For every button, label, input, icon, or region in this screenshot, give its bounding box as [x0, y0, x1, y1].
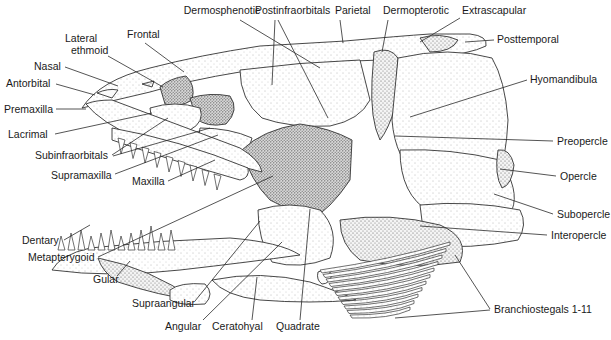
- label-frontal: Frontal: [127, 28, 160, 40]
- fish-skull-diagram: DermosphenoticPostinfraorbitalsParietalD…: [0, 0, 611, 340]
- label-dermosphenotic: Dermosphenotic: [184, 4, 260, 16]
- parietal-leader-line: [340, 20, 343, 43]
- label-extrascapular: Extrascapular: [462, 4, 527, 16]
- label-postinfraorbitals: Postinfraorbitals: [255, 4, 330, 16]
- branchiostegals-leader-line: [395, 310, 490, 318]
- label-quadrate: Quadrate: [276, 320, 320, 332]
- opercular-series: [340, 52, 524, 266]
- label-antorbital: Antorbital: [6, 77, 50, 89]
- upper-tooth: [118, 138, 125, 154]
- label-gular: Gular: [93, 273, 119, 285]
- upper-tooth: [214, 174, 221, 190]
- lower-tooth: [98, 233, 105, 250]
- label-lateral-ethmoid-line2: ethmoid: [71, 44, 109, 56]
- label-metapterygoid: Metapterygoid: [28, 251, 95, 263]
- lower-tooth: [108, 230, 115, 250]
- lower-tooth: [78, 230, 85, 250]
- upper-tooth: [190, 165, 197, 181]
- nasal-leader-line: [65, 67, 118, 86]
- lower-tooth: [138, 230, 145, 250]
- label-opercle: Opercle: [560, 170, 597, 182]
- upper-tooth: [154, 152, 161, 168]
- label-lateral-ethmoid: Lateral: [65, 32, 97, 44]
- label-dentary: Dentary: [22, 234, 60, 246]
- label-posttemporal: Posttemporal: [497, 33, 559, 45]
- dentary-leader-line: [64, 225, 90, 240]
- upper-tooth: [166, 156, 173, 172]
- lower-tooth: [168, 230, 175, 250]
- label-maxilla: Maxilla: [132, 175, 165, 187]
- branchiostegals-leader-line: [455, 255, 490, 309]
- label-nasal: Nasal: [34, 60, 61, 72]
- lower-tooth: [88, 236, 95, 250]
- label-supramaxilla: Supramaxilla: [51, 169, 112, 181]
- label-premaxilla: Premaxilla: [4, 103, 53, 115]
- skull-illustration: DermosphenoticPostinfraorbitalsParietalD…: [0, 0, 611, 340]
- upper-tooth: [202, 170, 209, 186]
- label-subinfraorbitals: Subinfraorbitals: [35, 149, 108, 161]
- jaws: [52, 100, 300, 305]
- label-ceratohyal: Ceratohyal: [212, 320, 263, 332]
- label-angular: Angular: [165, 320, 202, 332]
- label-dermopterotic: Dermopterotic: [383, 4, 449, 16]
- lower-tooth: [148, 226, 155, 250]
- label-lacrimal: Lacrimal: [8, 128, 48, 140]
- upper-tooth: [142, 147, 149, 163]
- label-branchiostegals: Branchiostegals 1-11: [494, 303, 592, 315]
- antorbital-leader-line: [56, 84, 95, 95]
- label-interopercle: Interopercle: [551, 229, 607, 241]
- label-hyomandibula: Hyomandibula: [530, 73, 597, 85]
- label-preopercle: Preopercle: [557, 135, 608, 147]
- label-parietal: Parietal: [335, 4, 371, 16]
- lower-tooth: [118, 236, 125, 250]
- label-subopercle: Subopercle: [557, 208, 610, 220]
- lower-tooth: [58, 236, 65, 250]
- label-supraangular: Supraangular: [132, 297, 196, 309]
